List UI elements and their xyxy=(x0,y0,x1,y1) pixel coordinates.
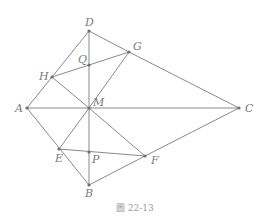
label-Q: Q xyxy=(78,53,87,66)
label-P: P xyxy=(91,153,100,166)
point-A xyxy=(25,106,28,109)
segment-HM xyxy=(52,77,89,108)
point-E xyxy=(57,147,60,150)
point-D xyxy=(87,29,90,32)
label-E: E xyxy=(54,152,63,165)
point-Q xyxy=(87,63,90,66)
segment-DG xyxy=(89,31,129,52)
point-C xyxy=(237,106,240,109)
segment-EF xyxy=(59,149,145,156)
figure-caption: 圖 22-13 xyxy=(116,203,154,213)
segment-AD xyxy=(27,31,89,108)
segment-FC xyxy=(145,108,239,156)
label-C: C xyxy=(245,102,254,115)
label-B: B xyxy=(84,187,93,200)
label-H: H xyxy=(38,70,49,83)
segment-EM xyxy=(59,108,89,149)
point-G xyxy=(127,50,130,53)
label-F: F xyxy=(150,154,159,167)
label-M: M xyxy=(92,96,105,109)
segment-GC xyxy=(129,52,239,108)
point-H xyxy=(50,75,53,78)
point-P xyxy=(87,150,90,153)
label-G: G xyxy=(133,40,142,53)
point-M xyxy=(87,106,90,109)
geometry-figure: D G Q H A M C E P F B 圖 22-13 xyxy=(0,0,268,219)
segment-AB xyxy=(27,108,89,185)
label-A: A xyxy=(14,102,23,115)
label-D: D xyxy=(84,16,94,29)
segment-MF xyxy=(89,108,145,156)
point-F xyxy=(143,154,146,157)
